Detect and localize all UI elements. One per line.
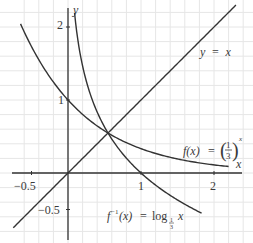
exp-function-label: f(x) = ( 1 3 ) x	[183, 135, 243, 162]
identity-line-label: y = x	[199, 45, 231, 59]
exp-paren-close: )	[232, 139, 239, 162]
tick-label-x-neg: −0.5	[14, 179, 36, 193]
log-base-num: 1	[170, 217, 173, 223]
tick-label-y-neg: −0.5	[38, 203, 60, 217]
tick-label-y-1: 1	[58, 93, 64, 107]
log-function-label: f −1 (x) = log 1 3 x	[107, 208, 184, 230]
function-graph: x y −0.5 1 2 1 2 −0.5 y = x f(x) = ( 1 3…	[0, 0, 253, 243]
exp-denominator: 3	[226, 151, 231, 161]
plot-area: x y −0.5 1 2 1 2 −0.5 y = x f(x) = ( 1 3…	[0, 0, 253, 243]
identity-line	[13, 5, 236, 228]
log-arg-x: (x)	[119, 209, 132, 223]
log-inverse-sup: −1	[111, 208, 119, 216]
exp-power: x	[238, 135, 243, 143]
exp-fx: f(x)	[183, 144, 200, 158]
log-word: log	[152, 209, 167, 223]
tick-label-x-1: 1	[138, 179, 144, 193]
exp-equals: =	[208, 144, 215, 158]
tick-label-y-2: 2	[57, 18, 63, 32]
curves	[13, 5, 236, 228]
log-base-den: 3	[170, 224, 173, 230]
exp-numerator: 1	[226, 140, 231, 150]
y-axis-label: y	[72, 3, 79, 17]
log-equals: =	[140, 209, 147, 223]
tick-label-x-2: 2	[210, 179, 216, 193]
log-arg: x	[177, 209, 184, 223]
